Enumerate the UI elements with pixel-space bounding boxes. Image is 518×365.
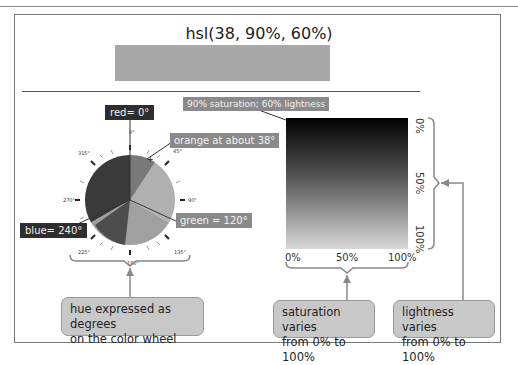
- label-green: green = 120°: [176, 213, 252, 228]
- saturation-lightness-square: [286, 118, 408, 249]
- callout-saturation: saturation varies from 0% to 100%: [273, 300, 375, 338]
- label-orange: orange at about 38°: [170, 133, 279, 148]
- svg-text:45°: 45°: [173, 148, 182, 154]
- svg-text:135°: 135°: [174, 249, 187, 255]
- x-tick-100: 100%: [388, 252, 417, 263]
- callout-hue-line2: on the color wheel: [70, 332, 195, 347]
- callout-light-line2: from 0% to 100%: [402, 335, 486, 365]
- callout-light-line1: lightness varies: [402, 305, 486, 335]
- callout-lightness: lightness varies from 0% to 100%: [393, 300, 495, 338]
- y-tick-50: 50%: [414, 172, 425, 194]
- svg-text:+: +: [147, 155, 154, 164]
- callout-sat-line1: saturation varies: [282, 305, 366, 335]
- svg-text:0°: 0°: [129, 129, 135, 135]
- label-sat-light: 90% saturation; 60% lightness: [183, 97, 329, 111]
- x-tick-0: 0%: [285, 252, 301, 263]
- y-tick-0: 0%: [414, 118, 425, 134]
- callout-hue-line1: hue expressed as degrees: [70, 302, 195, 332]
- callout-hue: hue expressed as degrees on the color wh…: [61, 297, 204, 336]
- x-tick-50: 50%: [336, 252, 358, 263]
- svg-text:90°: 90°: [188, 197, 197, 203]
- y-tick-100: 100%: [414, 225, 425, 254]
- label-blue: blue= 240°: [20, 223, 87, 238]
- svg-text:270°: 270°: [63, 197, 76, 203]
- callout-sat-line2: from 0% to 100%: [282, 335, 366, 365]
- svg-text:225°: 225°: [78, 249, 91, 255]
- label-red: red= 0°: [105, 105, 154, 120]
- svg-text:315°: 315°: [78, 150, 91, 156]
